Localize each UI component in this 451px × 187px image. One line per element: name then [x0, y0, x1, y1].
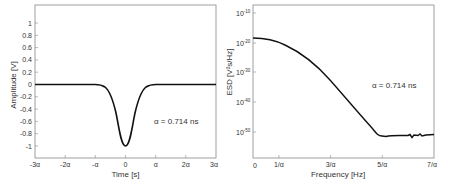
y-tick-label: 0.6 — [22, 44, 32, 51]
annotation: α = 0.714 ns — [372, 81, 416, 90]
x-tick-label: -α — [92, 161, 98, 168]
x-tick-label: 3α — [210, 161, 218, 168]
x-tick-label: -3α — [30, 161, 40, 168]
left-plot-frame — [35, 5, 216, 158]
left-x-ticks: -3α -2α -α 0 α 2α 3α — [30, 155, 218, 168]
x-tick-label: 3/α — [326, 161, 336, 168]
y-tick-label: -0.4 — [20, 106, 32, 113]
annotation: α = 0.714 ns — [154, 117, 198, 126]
x-tick-label: 1/α — [274, 161, 284, 168]
y-tick-label: -0.2 — [20, 93, 32, 100]
y-tick-label: 1 — [28, 20, 32, 27]
y-tick-label: -0.6 — [20, 118, 32, 125]
y-tick-label: 0.2 — [22, 69, 32, 76]
y-tick-label: 0.8 — [22, 32, 32, 39]
x-axis-label: Time [s] — [111, 170, 139, 179]
y-tick-label: -1 — [26, 143, 32, 150]
figure: 1 0.8 0.6 0.4 0.2 0 -0.2 -0.4 -0.6 -0.8 … — [0, 0, 451, 187]
y-tick-label: 10-50 — [236, 128, 251, 136]
x-tick-label: 0 — [124, 161, 128, 168]
x-tick-label: -2α — [60, 161, 70, 168]
y-tick-label: -0.8 — [20, 130, 32, 137]
pulse-curve — [35, 85, 216, 147]
y-tick-label: 10-10 — [236, 9, 251, 17]
y-tick-label: 10-20 — [236, 39, 251, 47]
x-axis-label: Frequency [Hz] — [311, 170, 365, 179]
x-tick-label: 2α — [182, 161, 190, 168]
left-chart: 1 0.8 0.6 0.4 0.2 0 -0.2 -0.4 -0.6 -0.8 … — [9, 5, 218, 179]
y-tick-label: 10-40 — [236, 98, 251, 106]
y-axis-label: Amplitude [V] — [9, 61, 18, 109]
right-chart: 10-10 10-20 10-30 10-40 10-50 0 1/α 3/α … — [225, 5, 437, 179]
y-axis-label: ESD [V²s/Hz] — [225, 48, 234, 95]
right-x-ticks: 0 1/α 3/α 5/α 7/α — [253, 155, 437, 169]
x-tick-label: 0 — [253, 162, 257, 169]
y-tick-label: 0.4 — [22, 56, 32, 63]
y-tick-label: 10-30 — [236, 68, 251, 76]
x-tick-label: α — [154, 161, 158, 168]
y-tick-label: 0 — [28, 81, 32, 88]
x-tick-label: 5/α — [377, 161, 387, 168]
x-tick-label: 7/α — [427, 161, 437, 168]
